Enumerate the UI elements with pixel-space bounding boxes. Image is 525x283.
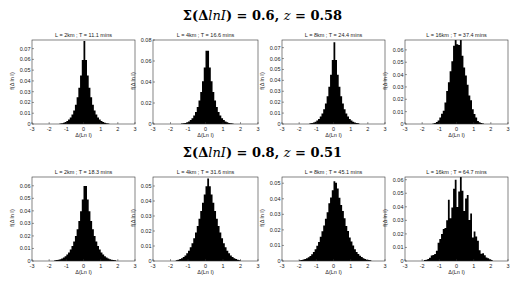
x-tick-label: -2 [168, 263, 173, 269]
y-tick-label: 0.02 [270, 227, 281, 233]
y-tick-label: 0.02 [393, 231, 404, 237]
histogram-plot: -3-2-1012300.010.020.030.040.050.06 [385, 175, 514, 271]
x-tick-label: -2 [47, 126, 52, 132]
y-tick-label: 0.07 [20, 46, 31, 52]
title-sigma: Σ(Δ [183, 8, 208, 23]
y-tick-label: 0.05 [393, 190, 404, 196]
histogram-plot: -3-2-1012300.010.020.030.040.050.06 [385, 38, 514, 134]
y-tick-label: 0.01 [141, 243, 152, 249]
y-tick-label: 0.06 [20, 183, 31, 189]
x-tick-label: 1 [349, 126, 352, 132]
y-tick-label: 0.02 [20, 233, 31, 239]
y-tick-label: 0.03 [20, 89, 31, 95]
title-sigma: Σ(Δ [183, 145, 208, 160]
y-tick-label: 0.05 [393, 59, 404, 65]
x-tick-label: 2 [239, 263, 242, 269]
y-tick-label: 0 [27, 121, 30, 127]
x-tick-label: 0 [332, 263, 335, 269]
x-tick-label: 1 [472, 126, 475, 132]
y-tick-label: 0.03 [20, 220, 31, 226]
y-tick-label: 0.05 [270, 66, 281, 72]
y-tick-label: 0.06 [20, 56, 31, 62]
y-tick-label: 0 [27, 258, 30, 264]
title-var: lnI [208, 8, 226, 23]
y-tick-label: 0.03 [270, 88, 281, 94]
histogram-plot: -3-2-1012300.010.020.030.040.050.060.07 [12, 38, 141, 134]
x-tick-label: -1 [64, 263, 69, 269]
histogram-plot: -3-2-1012300.020.040.060.08 [133, 38, 264, 134]
x-tick-label: 0 [455, 126, 458, 132]
x-tick-label: 2 [366, 263, 369, 269]
x-tick-label: -2 [420, 263, 425, 269]
y-tick-label: 0.01 [20, 110, 31, 116]
histogram-bars [299, 181, 371, 261]
title-var: lnI [208, 145, 226, 160]
x-tick-label: -1 [64, 126, 69, 132]
y-tick-label: 0.02 [270, 99, 281, 105]
x-tick-label: 2 [116, 126, 119, 132]
y-tick-label: 0.04 [141, 79, 152, 85]
y-tick-label: 0.07 [270, 45, 281, 51]
y-tick-label: 0 [148, 258, 151, 264]
row-title-1: Σ(ΔlnI) = 0.8, z = 0.51 [0, 145, 525, 160]
x-tick-label: 0 [82, 263, 85, 269]
x-tick-label: 0 [455, 263, 458, 269]
x-tick-label: 0 [82, 126, 85, 132]
y-tick-label: 0.03 [393, 217, 404, 223]
title-zval: = 0.51 [291, 145, 343, 160]
y-tick-label: 0 [400, 258, 403, 264]
histogram-bars [59, 41, 109, 124]
y-tick-label: 0.03 [141, 213, 152, 219]
x-tick-label: 1 [349, 263, 352, 269]
x-tick-label: -2 [297, 263, 302, 269]
x-tick-label: 1 [472, 263, 475, 269]
histogram-bars [309, 42, 359, 124]
y-tick-label: 0.01 [393, 244, 404, 250]
title-z: z [284, 8, 291, 23]
x-tick-label: 3 [256, 126, 259, 132]
y-tick-label: 0 [277, 258, 280, 264]
x-tick-label: -1 [314, 126, 319, 132]
y-tick-label: 0.06 [141, 58, 152, 64]
y-tick-label: 0.04 [141, 198, 152, 204]
x-tick-label: 1 [99, 126, 102, 132]
x-tick-label: 0 [204, 263, 207, 269]
y-tick-label: 0.06 [270, 56, 281, 62]
y-tick-label: 0.04 [393, 204, 404, 210]
histogram-bars [54, 186, 116, 261]
y-tick-label: 0.03 [393, 84, 404, 90]
row-title-0: Σ(ΔlnI) = 0.6, z = 0.58 [0, 8, 525, 23]
y-tick-label: 0 [277, 121, 280, 127]
y-tick-label: 0.03 [270, 211, 281, 217]
y-tick-label: 0.01 [270, 242, 281, 248]
x-tick-label: -1 [186, 263, 191, 269]
x-tick-label: 2 [489, 126, 492, 132]
x-tick-label: 3 [256, 263, 259, 269]
y-tick-label: 0.04 [20, 208, 31, 214]
y-tick-label: 0.05 [20, 195, 31, 201]
x-tick-label: -2 [47, 263, 52, 269]
x-tick-label: 1 [221, 263, 224, 269]
y-tick-label: 0.02 [393, 96, 404, 102]
y-tick-label: 0 [400, 121, 403, 127]
histogram-bars [181, 51, 234, 124]
histogram-plot: -3-2-1012300.010.020.030.040.050.060.07 [262, 38, 391, 134]
x-tick-label: -1 [437, 263, 442, 269]
histogram-plot: -3-2-1012300.010.020.030.040.050.06 [12, 175, 141, 271]
x-tick-label: 0 [204, 126, 207, 132]
y-tick-label: 0.04 [270, 196, 281, 202]
title-z: z [284, 145, 291, 160]
x-tick-label: -2 [168, 126, 173, 132]
y-tick-label: 0.06 [393, 47, 404, 53]
x-tick-label: -2 [297, 126, 302, 132]
histogram-plot: -3-2-1012300.010.020.030.040.05 [133, 175, 264, 271]
title-rest: ) = 0.6, [226, 8, 284, 23]
y-tick-label: 0.04 [270, 77, 281, 83]
y-tick-label: 0.06 [393, 177, 404, 183]
y-tick-label: 0.05 [141, 183, 152, 189]
histogram-plot: -3-2-1012300.010.020.030.040.05 [262, 175, 391, 271]
x-tick-label: -1 [437, 126, 442, 132]
x-tick-label: -1 [186, 126, 191, 132]
x-tick-label: 1 [99, 263, 102, 269]
x-tick-label: 2 [116, 263, 119, 269]
